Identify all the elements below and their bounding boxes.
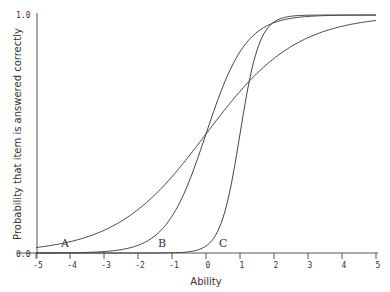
x-tick-label: 3 xyxy=(308,261,313,270)
x-tick-label: 4 xyxy=(342,261,347,270)
x-axis-title: Ability xyxy=(190,276,221,287)
curves xyxy=(36,15,376,253)
x-tick-label: -4 xyxy=(67,261,77,270)
curve-label-c: C xyxy=(219,237,227,250)
y-tick-bottom: 0.0 xyxy=(16,250,31,259)
x-tick-label: 2 xyxy=(274,261,279,270)
x-tick-label: 5 xyxy=(376,261,381,270)
x-ticks: -5-4-3-2-1012345 xyxy=(33,253,380,270)
x-tick-label: 0 xyxy=(206,261,211,270)
x-tick-label: 1 xyxy=(240,261,245,270)
curve-label-a: A xyxy=(60,237,70,250)
y-tick-top: 1.0 xyxy=(16,11,31,20)
x-tick-label: -2 xyxy=(135,261,145,270)
y-axis-title: Probability that item is answered correc… xyxy=(12,28,23,240)
irt-chart: -5-4-3-2-1012345 1.0 0.0 Ability Probabi… xyxy=(0,0,390,292)
curve-label-b: B xyxy=(158,237,166,250)
curve-b xyxy=(36,15,376,253)
x-tick-label: -1 xyxy=(169,261,179,270)
x-tick-label: -5 xyxy=(33,261,43,270)
x-tick-label: -3 xyxy=(101,261,111,270)
